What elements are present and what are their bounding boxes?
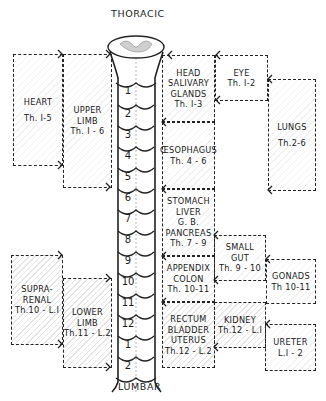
oesophagus-label: ŒSOPHAGUS (160, 145, 217, 156)
ureter-label: URETER (273, 337, 308, 348)
colon-label: COLON (173, 274, 204, 285)
segment-t5: 5 (117, 171, 139, 182)
lungs-box: LUNGS Th.2-6 (268, 79, 316, 191)
lungs-segments: Th.2-6 (278, 138, 306, 149)
oesophagus-segments: Th. 4 - 6 (170, 156, 207, 167)
kidney-box: KIDNEY Th.12 - L.I (214, 302, 266, 348)
suprarenal-segments: Th.10 - L.I (15, 305, 59, 316)
segment-t6: 6 (117, 192, 139, 203)
gb-label: G. B. (178, 217, 199, 228)
suprarenal-box: SUPRA- RENAL Th.10 - L.I (11, 255, 63, 345)
appendix-label: APPENDIX (167, 263, 211, 274)
suprarenal-label-1: SUPRA- (21, 284, 53, 295)
uterus-label: UTERUS (171, 335, 206, 346)
segment-t1: 1 (117, 85, 139, 96)
segment-t8: 8 (117, 234, 139, 245)
segment-t9: 9 (117, 255, 139, 266)
stomach-box: STOMACH LIVER G. B. PANCREAS Th. 7 - 9 (162, 189, 215, 256)
ureter-box: URETER L.I - 2 (265, 324, 316, 371)
salivary-label: SALIVARY (168, 78, 209, 89)
segment-t11: 11 (117, 297, 139, 308)
segment-t12: 12 (117, 318, 139, 329)
spinal-segment-innervation-diagram: THORACIC LUMBAR 1 2 3 4 5 6 7 8 9 10 11 … (0, 0, 326, 401)
pancreas-label: PANCREAS (166, 228, 212, 239)
head-label: HEAD (176, 68, 200, 79)
oesophagus-box: ŒSOPHAGUS Th. 4 - 6 (162, 122, 215, 189)
eye-label: EYE (233, 68, 249, 79)
upper-limb-label-2: LIMB (77, 116, 98, 127)
heart-segments: Th. I-5 (24, 113, 52, 124)
small-label: SMALL (226, 242, 255, 253)
gut-label: GUT (231, 253, 249, 264)
upper-limb-label-1: UPPER (73, 105, 101, 116)
head-segments: Th. I-3 (174, 99, 202, 110)
eye-box: EYE Th. I-2 (215, 55, 268, 101)
stomach-label: STOMACH (167, 196, 210, 207)
lower-limb-label-2: LIMB (77, 318, 98, 329)
lower-limb-segments: Th.11 - L.2 (64, 328, 111, 339)
segment-t7: 7 (117, 213, 139, 224)
small-gut-segments: Th. 9 - 10 (219, 263, 261, 274)
thoracic-label: THORACIC (111, 8, 165, 19)
stomach-segments: Th. 7 - 9 (170, 238, 207, 249)
upper-limb-segments: Th. I - 6 (71, 126, 105, 137)
segment-t3: 3 (117, 129, 139, 140)
gonads-label: GONADS (272, 271, 310, 282)
kidney-segments: Th.12 - L.I (218, 325, 262, 336)
segment-l1: 1 (117, 339, 139, 350)
lower-limb-label-1: LOWER (72, 307, 103, 318)
segment-t10: 10 (117, 276, 139, 287)
segment-t2: 2 (117, 108, 139, 119)
appendix-segments: Th. 10-11 (168, 284, 210, 295)
ureter-segments: L.I - 2 (278, 348, 303, 359)
lower-limb-box: LOWER LIMB Th.11 - L.2 (63, 278, 112, 368)
gonads-box: GONADS Th 10-11 (266, 259, 316, 304)
liver-label: LIVER (176, 207, 201, 218)
gonads-segments: Th 10-11 (272, 282, 311, 293)
glands-label: GLANDS (170, 89, 206, 100)
segment-l2: 2 (117, 360, 139, 371)
kidney-label: KIDNEY (224, 315, 256, 326)
heart-box: HEART Th. I-5 (13, 54, 63, 166)
lumbar-label: LUMBAR (118, 381, 161, 392)
rectum-segments: Th.12 - L.2 (165, 346, 212, 357)
head-salivary-box: HEAD SALIVARY GLANDS Th. I-3 (162, 55, 215, 122)
small-gut-box: SMALL GUT Th. 9 - 10 (214, 235, 266, 281)
appendix-colon-box: APPENDIX COLON Th. 10-11 (162, 256, 215, 302)
segment-t4: 4 (117, 150, 139, 161)
eye-segments: Th. I-2 (227, 78, 255, 89)
suprarenal-label-2: RENAL (23, 295, 52, 306)
lungs-label: LUNGS (277, 122, 306, 133)
bladder-label: BLADDER (168, 325, 210, 336)
rectum-bladder-box: RECTUM BLADDER UTERUS Th.12 - L.2 (162, 302, 215, 368)
heart-label: HEART (24, 97, 53, 108)
upper-limb-box: UPPER LIMB Th. I - 6 (63, 54, 112, 188)
rectum-label: RECTUM (170, 314, 206, 325)
